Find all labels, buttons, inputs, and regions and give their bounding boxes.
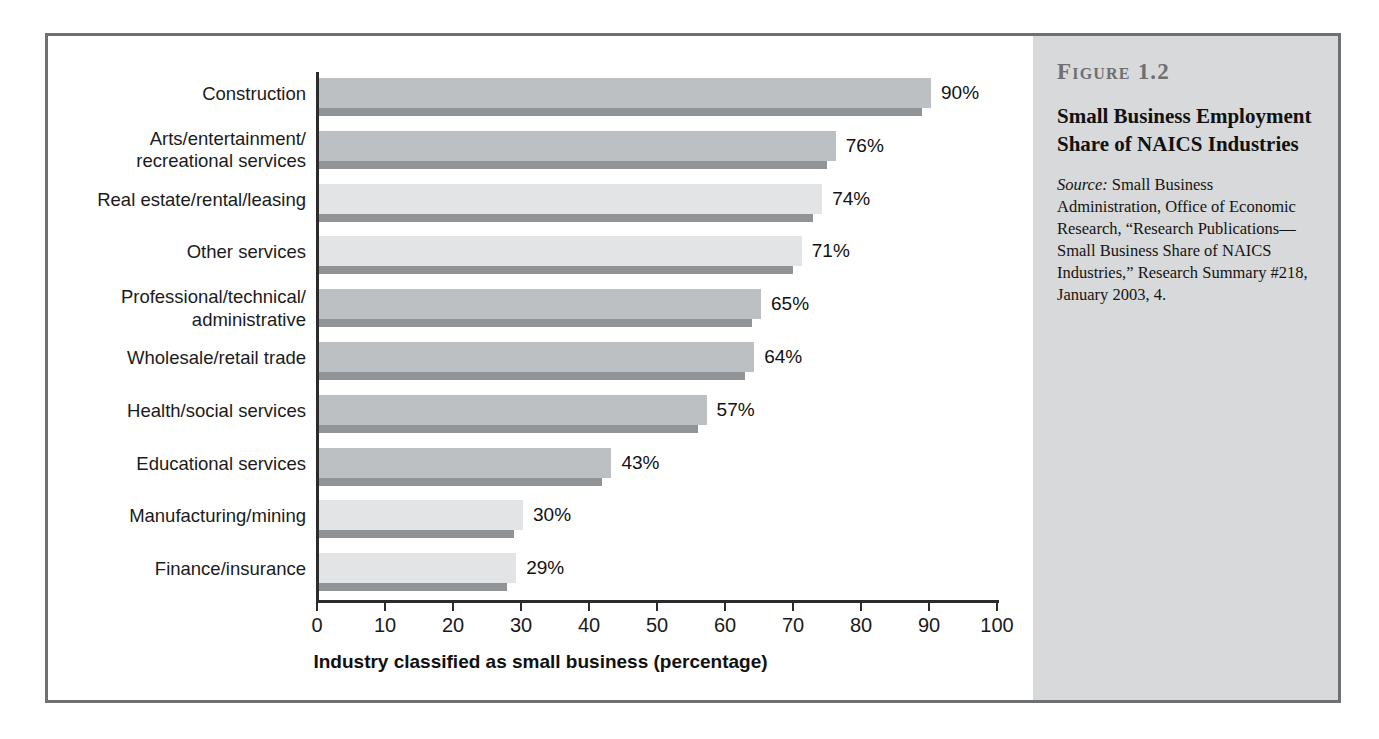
bar-body bbox=[319, 500, 523, 530]
x-tick-70 bbox=[792, 600, 794, 611]
category-label-line: Arts/entertainment/ bbox=[56, 128, 306, 151]
category-label: Health/social services bbox=[56, 400, 306, 423]
x-tick-label-80: 80 bbox=[831, 614, 891, 637]
x-tick-80 bbox=[860, 600, 862, 611]
bar-base-shadow bbox=[319, 214, 813, 222]
bar-body bbox=[319, 342, 754, 372]
x-tick-100 bbox=[996, 600, 998, 611]
x-tick-60 bbox=[724, 600, 726, 611]
bar-base-shadow bbox=[319, 372, 745, 380]
bar-body bbox=[319, 395, 707, 425]
bar-body bbox=[319, 553, 516, 583]
category-label: Wholesale/retail trade bbox=[56, 347, 306, 370]
bar bbox=[319, 395, 707, 433]
category-label-line: administrative bbox=[56, 309, 306, 332]
bar-body bbox=[319, 184, 822, 214]
bar-body bbox=[319, 448, 611, 478]
bar-base-shadow bbox=[319, 319, 752, 327]
category-label-line: Professional/technical/ bbox=[56, 286, 306, 309]
x-tick-50 bbox=[656, 600, 658, 611]
bar bbox=[319, 553, 516, 591]
x-axis-title: Industry classified as small business (p… bbox=[48, 651, 1033, 673]
bar-value-label: 65% bbox=[771, 293, 809, 315]
category-label: Real estate/rental/leasing bbox=[56, 189, 306, 212]
category-label-line: recreational services bbox=[56, 150, 306, 173]
category-label: Finance/insurance bbox=[56, 558, 306, 581]
bar-base-shadow bbox=[319, 108, 922, 116]
bar bbox=[319, 500, 523, 538]
x-tick-90 bbox=[928, 600, 930, 611]
bar-base-shadow bbox=[319, 478, 602, 486]
x-tick-label-100: 100 bbox=[967, 614, 1027, 637]
x-tick-0 bbox=[316, 600, 318, 611]
bar-base-shadow bbox=[319, 530, 514, 538]
category-label: Arts/entertainment/recreational services bbox=[56, 128, 306, 173]
figure-frame: 0102030405060708090100 Construction90%Ar… bbox=[45, 33, 1341, 703]
bar-value-label: 30% bbox=[533, 504, 571, 526]
bar-body bbox=[319, 289, 761, 319]
x-tick-label-20: 20 bbox=[423, 614, 483, 637]
bar-value-label: 64% bbox=[764, 346, 802, 368]
bar bbox=[319, 289, 761, 327]
x-tick-label-50: 50 bbox=[627, 614, 687, 637]
bar-value-label: 74% bbox=[832, 188, 870, 210]
x-tick-label-30: 30 bbox=[491, 614, 551, 637]
bar bbox=[319, 78, 931, 116]
bar bbox=[319, 236, 802, 274]
bar-base-shadow bbox=[319, 161, 827, 169]
x-tick-30 bbox=[520, 600, 522, 611]
bar bbox=[319, 131, 836, 169]
x-tick-40 bbox=[588, 600, 590, 611]
bar-value-label: 57% bbox=[717, 399, 755, 421]
figure-title: Small Business Employment Share of NAICS… bbox=[1057, 103, 1318, 158]
x-tick-label-60: 60 bbox=[695, 614, 755, 637]
figure-number: Figure 1.2 bbox=[1057, 60, 1318, 83]
category-label: Manufacturing/mining bbox=[56, 505, 306, 528]
bar-value-label: 71% bbox=[812, 240, 850, 262]
x-tick-label-70: 70 bbox=[763, 614, 823, 637]
bar bbox=[319, 448, 611, 486]
x-tick-label-90: 90 bbox=[899, 614, 959, 637]
x-tick-label-40: 40 bbox=[559, 614, 619, 637]
category-label: Professional/technical/administrative bbox=[56, 286, 306, 331]
bar-base-shadow bbox=[319, 425, 698, 433]
x-tick-label-0: 0 bbox=[287, 614, 347, 637]
bar-value-label: 90% bbox=[941, 82, 979, 104]
bar-body bbox=[319, 78, 931, 108]
bar-base-shadow bbox=[319, 583, 507, 591]
bar-chart: 0102030405060708090100 Construction90%Ar… bbox=[48, 36, 1033, 700]
bar bbox=[319, 342, 754, 380]
category-label: Other services bbox=[56, 241, 306, 264]
source-text: Small Business Administration, Office of… bbox=[1057, 175, 1308, 304]
bar-value-label: 43% bbox=[621, 452, 659, 474]
figure-caption-panel: Figure 1.2 Small Business Employment Sha… bbox=[1033, 36, 1338, 700]
category-label: Educational services bbox=[56, 453, 306, 476]
category-label: Construction bbox=[56, 83, 306, 106]
bar-value-label: 76% bbox=[846, 135, 884, 157]
x-tick-20 bbox=[452, 600, 454, 611]
bar-value-label: 29% bbox=[526, 557, 564, 579]
bar-body bbox=[319, 131, 836, 161]
bar-body bbox=[319, 236, 802, 266]
x-tick-label-10: 10 bbox=[355, 614, 415, 637]
bar-base-shadow bbox=[319, 266, 793, 274]
bar bbox=[319, 184, 822, 222]
figure-source: Source: Small Business Administration, O… bbox=[1057, 174, 1318, 306]
source-label: Source: bbox=[1057, 175, 1108, 194]
x-tick-10 bbox=[384, 600, 386, 611]
